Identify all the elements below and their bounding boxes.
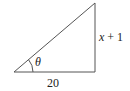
right-triangle-diagram: θ x + 1 20 <box>0 0 130 91</box>
vertical-side-label: x + 1 <box>98 30 123 44</box>
horizontal-side-label: 20 <box>47 76 59 90</box>
hypotenuse <box>14 3 95 72</box>
angle-label: θ <box>35 55 41 69</box>
angle-arc <box>29 60 34 72</box>
triangle <box>14 3 95 72</box>
